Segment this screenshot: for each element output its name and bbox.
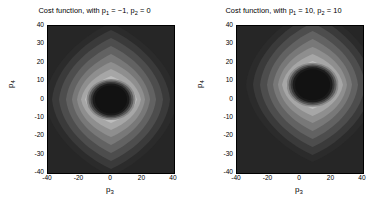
panel-title-left-sub1: 1	[106, 10, 109, 16]
yaxis-label-right: p4	[196, 80, 204, 88]
plot-area-left	[47, 25, 175, 174]
contour-panel-right: Cost function, with p1 = 10, p2 = 10	[189, 0, 378, 207]
yaxis-label-left: p4	[7, 80, 15, 88]
plot-area-right	[236, 25, 364, 174]
figure-canvas: Cost function, with p1 = −1, p2 = 0	[0, 0, 378, 207]
panel-title-left-mid: = −1, p	[109, 6, 134, 15]
panel-title-left: Cost function, with p1 = −1, p2 = 0	[0, 6, 189, 15]
panel-title-right-sub2: 2	[321, 10, 324, 16]
panel-title-right: Cost function, with p1 = 10, p2 = 10	[189, 6, 378, 15]
xaxis-label-right: p3	[236, 186, 362, 194]
panel-title-left-end: = 0	[138, 6, 151, 15]
contour-plot-right	[237, 26, 363, 173]
panel-title-right-end: = 10	[325, 6, 342, 15]
contour-plot-left	[48, 26, 174, 173]
panel-title-left-sub2: 2	[135, 10, 138, 16]
contour-bands-left	[48, 26, 174, 173]
panel-title-right-sub1: 1	[293, 10, 296, 16]
contour-bands-right	[237, 26, 363, 173]
contour-panel-left: Cost function, with p1 = −1, p2 = 0	[0, 0, 189, 207]
panel-title-right-prefix: Cost function, with p	[225, 6, 293, 15]
panel-title-right-mid: = 10, p	[296, 6, 321, 15]
panel-title-left-prefix: Cost function, with p	[38, 6, 106, 15]
xaxis-label-left: p3	[47, 186, 173, 194]
